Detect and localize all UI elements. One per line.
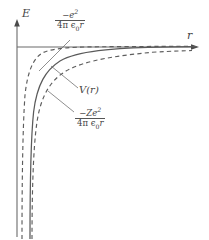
outer-dashed-curve-label: −e2 4π ϵ0r <box>55 9 85 32</box>
outer-dashed-numerator: −e2 <box>55 9 85 20</box>
outer-dashed-denominator: 4π ϵ0r <box>55 20 85 32</box>
inner-dashed-curve <box>32 51 192 240</box>
outer-dashed-curve <box>22 46 192 239</box>
solid-curve <box>30 47 196 239</box>
figure-container: E r −e2 4π ϵ0r V(r) −Ze2 4π ϵ0r <box>0 0 209 239</box>
energy-axis <box>14 19 20 237</box>
leader-solid <box>51 66 78 88</box>
inner-dashed-curve-label: −Ze2 4π ϵ0r <box>75 107 105 130</box>
leader-outer-dashed <box>39 40 70 71</box>
inner-dashed-denominator: 4π ϵ0r <box>75 118 105 130</box>
solid-curve-label: V(r) <box>79 85 99 95</box>
leader-inner-dashed <box>48 91 74 112</box>
energy-axis-arrow <box>14 19 20 27</box>
energy-axis-label: E <box>22 8 30 19</box>
radius-axis-label: r <box>187 30 192 41</box>
inner-dashed-numerator: −Ze2 <box>75 107 105 118</box>
